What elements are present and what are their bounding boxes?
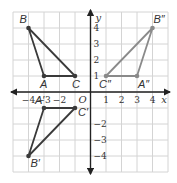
y-axis-label: y — [95, 12, 102, 23]
y-tick-label: 2 — [94, 55, 100, 65]
coordinate-plane: −4−3−212344321−2−3−4Oxy ABCA′B′C′A″B″C″ — [0, 0, 177, 183]
x-tick-label: 3 — [134, 95, 140, 105]
triangle-edges — [29, 28, 76, 76]
vertex-label: C — [72, 78, 80, 90]
y-tick-label: −4 — [94, 151, 108, 161]
x-tick-label: 2 — [119, 95, 125, 105]
vertex-label: C′ — [78, 106, 89, 118]
x-tick-label: −4 — [22, 95, 36, 105]
x-axis-label: x — [161, 94, 167, 105]
x-tick-label: −2 — [53, 95, 66, 105]
origin-label: O — [78, 94, 86, 105]
vertex-label: B′ — [31, 157, 41, 169]
triangle-abc: A″B″C″ — [99, 13, 166, 90]
vertex-label: A — [39, 78, 47, 90]
vertex-point — [73, 106, 78, 111]
y-tick-label: 4 — [94, 23, 100, 33]
vertex-label: A′ — [34, 94, 45, 106]
y-tick-label: 3 — [94, 39, 100, 49]
vertex-label: B — [20, 13, 27, 25]
triangle-edges — [106, 28, 153, 76]
vertex-point — [150, 26, 155, 31]
x-tick-label: 1 — [103, 95, 109, 105]
triangles: ABCA′B′C′A″B″C″ — [20, 13, 166, 169]
vertex-point — [26, 26, 31, 31]
vertex-label: C″ — [99, 78, 112, 90]
x-tick-label: 4 — [150, 95, 156, 105]
triangle-edges — [29, 108, 76, 156]
y-tick-label: −3 — [94, 135, 108, 145]
vertex-point — [42, 106, 47, 111]
vertex-label: A″ — [137, 78, 150, 90]
vertex-label: B″ — [154, 13, 166, 25]
y-tick-label: −2 — [94, 119, 107, 129]
triangle-abc: A′B′C′ — [26, 94, 89, 169]
